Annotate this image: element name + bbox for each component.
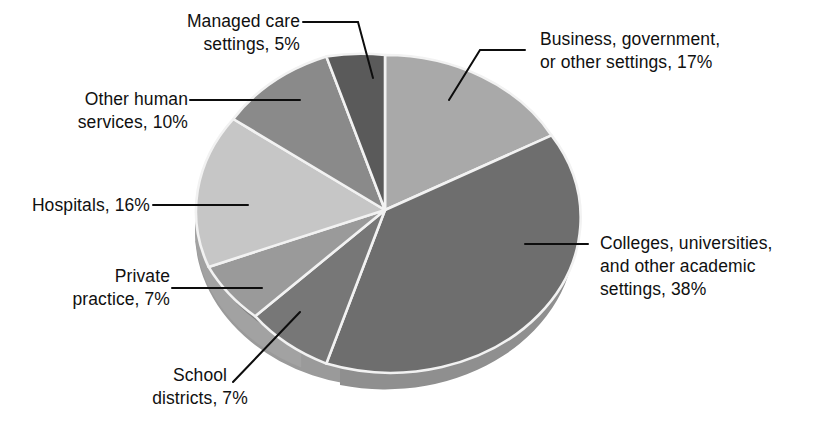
label-managed-care: Managed care settings, 5% bbox=[60, 10, 300, 56]
pie-chart-figure: Managed care settings, 5% Other human se… bbox=[0, 0, 815, 427]
label-colleges: Colleges, universities, and other academ… bbox=[600, 232, 815, 301]
label-hospitals: Hospitals, 16% bbox=[0, 194, 150, 217]
label-private-practice: Private practice, 7% bbox=[10, 265, 170, 311]
label-business-government: Business, government, or other settings,… bbox=[540, 28, 810, 74]
label-school-districts: School districts, 7% bbox=[130, 364, 270, 410]
label-other-human-services: Other human services, 10% bbox=[10, 88, 188, 134]
